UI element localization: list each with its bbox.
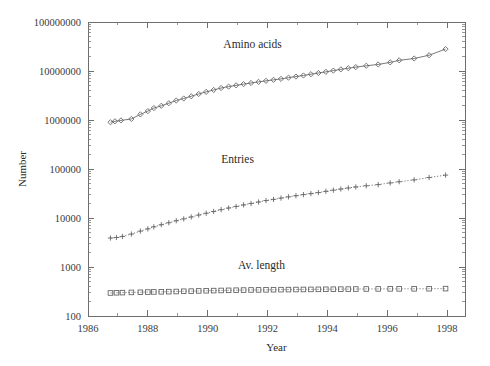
data-point-marker <box>151 224 156 229</box>
data-point-marker <box>346 185 351 190</box>
data-point-marker <box>256 199 261 204</box>
data-point-marker <box>286 194 291 199</box>
data-point-marker <box>263 198 268 203</box>
data-point-marker <box>426 175 431 180</box>
y-tick-label: 100000 <box>50 164 82 175</box>
y-tick-label: 10000000 <box>39 66 81 77</box>
data-point-marker <box>174 289 179 294</box>
series-entries: Entries <box>108 153 448 240</box>
data-point-marker <box>234 204 239 209</box>
y-tick-label: 10000 <box>55 213 81 224</box>
data-point-marker <box>196 289 201 294</box>
data-point-marker <box>248 201 253 206</box>
data-point-marker <box>129 290 134 295</box>
data-point-marker <box>301 192 306 197</box>
data-point-marker <box>159 289 164 294</box>
data-point-marker <box>219 207 224 212</box>
y-tick-label: 1000 <box>60 262 81 273</box>
x-tick-label: 1996 <box>377 323 398 334</box>
data-point-marker <box>397 179 402 184</box>
data-point-marker <box>159 222 164 227</box>
x-axis-title: Year <box>266 341 287 353</box>
data-point-marker <box>211 288 216 293</box>
series-annotation-1: Entries <box>221 153 254 165</box>
data-point-marker <box>138 290 143 295</box>
data-point-marker <box>443 46 448 51</box>
data-point-marker <box>443 173 448 178</box>
y-tick-label: 1000000 <box>44 115 81 126</box>
data-point-marker <box>108 235 113 240</box>
data-point-marker <box>129 231 134 236</box>
log-line-chart: 1986198819901992199419961998100100010000… <box>0 0 490 366</box>
x-tick-label: 1988 <box>137 323 158 334</box>
data-point-marker <box>293 193 298 198</box>
data-point-marker <box>331 188 336 193</box>
data-point-marker <box>316 190 321 195</box>
data-point-marker <box>166 289 171 294</box>
series-amino-acids: Amino acids <box>108 38 448 125</box>
plot-frame <box>89 23 466 317</box>
series-annotation-2: Av. length <box>238 259 285 272</box>
data-point-marker <box>241 202 246 207</box>
chart-root: 1986198819901992199419961998100100010000… <box>0 0 490 366</box>
y-tick-label: 100000000 <box>34 17 81 28</box>
data-point-marker <box>323 189 328 194</box>
data-point-marker <box>211 209 216 214</box>
x-tick-label: 1990 <box>197 323 218 334</box>
data-point-marker <box>412 177 417 182</box>
y-tick-label: 100 <box>65 311 81 322</box>
data-point-marker <box>138 229 143 234</box>
y-axis-title: Number <box>16 151 28 187</box>
data-point-marker <box>226 288 231 293</box>
data-point-marker <box>338 186 343 191</box>
x-tick-label: 1986 <box>78 323 99 334</box>
data-point-marker <box>120 234 125 239</box>
series-av-length: Av. length <box>108 259 448 295</box>
data-point-marker <box>204 211 209 216</box>
data-point-marker <box>114 235 119 240</box>
data-point-marker <box>120 290 125 295</box>
x-tick-label: 1992 <box>257 323 278 334</box>
x-tick-label: 1998 <box>437 323 458 334</box>
data-point-marker <box>174 218 179 223</box>
data-point-marker <box>145 226 150 231</box>
data-point-marker <box>189 214 194 219</box>
data-point-marker <box>308 191 313 196</box>
data-series: Amino acidsEntriesAv. length <box>108 38 448 296</box>
data-point-marker <box>271 197 276 202</box>
data-point-marker <box>166 220 171 225</box>
series-annotation-0: Amino acids <box>223 38 282 50</box>
data-point-marker <box>114 290 119 295</box>
data-point-marker <box>376 182 381 187</box>
data-point-marker <box>278 195 283 200</box>
data-point-marker <box>196 212 201 217</box>
data-point-marker <box>226 205 231 210</box>
data-point-marker <box>353 184 358 189</box>
data-point-marker <box>181 289 186 294</box>
data-point-marker <box>364 183 369 188</box>
x-tick-label: 1994 <box>317 323 339 334</box>
data-point-marker <box>181 216 186 221</box>
data-point-marker <box>388 180 393 185</box>
